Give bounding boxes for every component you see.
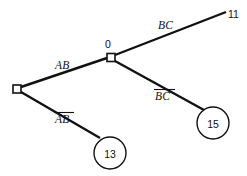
node-inner-square[interactable] — [107, 54, 115, 62]
edge-label-ab: AB — [54, 59, 69, 71]
node-root-square[interactable] — [13, 85, 21, 93]
decision-tree-diagram: 0 15 13 11 AB AB BC BC — [0, 0, 247, 176]
edge-label-ab-bar: AB — [54, 113, 69, 125]
leaf-label-15: 15 — [207, 118, 219, 130]
node-inner-label: 0 — [105, 38, 111, 50]
terminal-label-11: 11 — [228, 8, 239, 20]
diagram-canvas: 0 15 13 11 AB AB BC BC — [0, 0, 247, 176]
edge-label-bc-bar: BC — [155, 90, 170, 102]
edge-label-bc: BC — [158, 19, 173, 31]
leaf-label-13: 13 — [104, 148, 116, 160]
edge-bc-bar-line — [115, 61, 204, 110]
